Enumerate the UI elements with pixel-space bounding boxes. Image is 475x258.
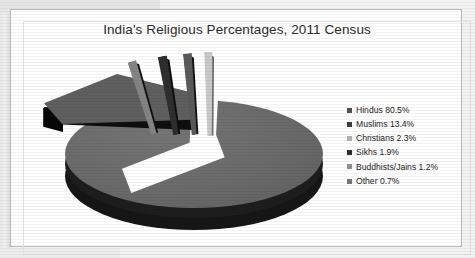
legend-item-label: Sikhs 1.9% — [356, 148, 399, 157]
legend-swatch-icon — [347, 136, 352, 141]
legend-item-buddhists-jains: Buddhists/Jains 1.2% — [347, 160, 459, 174]
chart-page: India's Religious Percentages, 2011 Cens… — [10, 9, 462, 247]
pie-chart — [25, 48, 355, 228]
legend-item-label: Muslims 13.4% — [356, 120, 414, 129]
legend-item-sikhs: Sikhs 1.9% — [347, 146, 459, 160]
legend-swatch-icon — [347, 164, 352, 169]
legend-item-label: Hindus 80.5% — [356, 106, 410, 115]
legend-item-label: Christians 2.3% — [356, 134, 416, 143]
legend-swatch-icon — [347, 122, 352, 127]
chart-legend: Hindus 80.5% Muslims 13.4% Christians 2.… — [347, 103, 459, 188]
legend-swatch-icon — [347, 150, 352, 155]
legend-item-label: Buddhists/Jains 1.2% — [356, 163, 438, 172]
pie-slice-other-top — [198, 52, 219, 136]
legend-item-other: Other 0.7% — [347, 174, 459, 188]
pie-slice-other — [198, 52, 219, 136]
page-title: India's Religious Percentages, 2011 Cens… — [11, 22, 463, 37]
legend-item-muslims: Muslims 13.4% — [347, 117, 459, 131]
scan-edge-bottom — [0, 248, 120, 258]
screenshot-root: India's Religious Percentages, 2011 Cens… — [0, 0, 475, 258]
legend-swatch-icon — [347, 179, 352, 184]
legend-swatch-icon — [347, 108, 352, 113]
legend-item-christians: Christians 2.3% — [347, 131, 459, 145]
legend-item-hindus: Hindus 80.5% — [347, 103, 459, 117]
legend-item-label: Other 0.7% — [356, 177, 399, 186]
